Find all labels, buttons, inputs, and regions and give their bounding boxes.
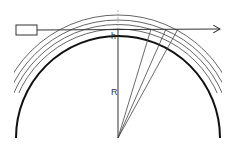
atmosphere-diagram [0,0,233,144]
radial-line-1 [118,29,151,138]
layer-arc-3 [0,20,233,144]
height-label: h [111,32,116,41]
source-box [16,25,37,35]
radius-label: R [111,88,118,97]
radial-line-3 [118,29,178,138]
ray-arrow [37,29,220,30]
radial-line-2 [118,29,166,138]
radial-lines [118,29,178,138]
